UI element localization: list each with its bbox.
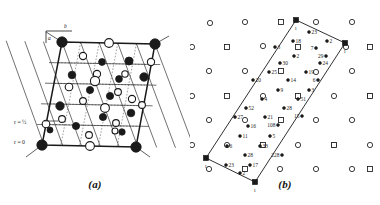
cell-corner-marker (342, 40, 347, 45)
panel-a-drawing: r = ½r = 0ba (0, 0, 190, 175)
open-site (101, 104, 110, 113)
open-square-site (225, 94, 230, 99)
numbered-site-marker (269, 135, 272, 138)
open-circle-site (313, 69, 318, 74)
open-site (80, 98, 87, 105)
numbered-site-marker (281, 154, 284, 157)
numbered-site-marker (297, 98, 300, 101)
numbered-site-marker (277, 124, 280, 127)
numbered-site-marker (305, 71, 308, 74)
open-circle-site (367, 142, 372, 147)
filled-site (116, 76, 123, 83)
filled-site (99, 59, 106, 66)
numbered-site-label: 6 (230, 143, 233, 149)
numbered-site-label: 9 (281, 87, 284, 93)
r-half-label: r = ½ (14, 119, 27, 125)
numbered-site-marker (244, 154, 247, 157)
numbered-site-marker (225, 164, 228, 167)
open-circle-site (313, 166, 318, 171)
open-site (147, 58, 154, 65)
numbered-site-label: 51 (301, 96, 307, 102)
filled-site (47, 127, 53, 133)
numbered-site-label: 6 (313, 77, 316, 83)
filled-site (131, 142, 141, 152)
open-circle-site (206, 166, 211, 171)
numbered-site-marker (325, 55, 328, 58)
numbered-site-marker (249, 164, 252, 167)
numbered-site-marker (268, 71, 271, 74)
panel-a-sublattice-grid (46, 42, 151, 146)
diagonal-line (25, 41, 63, 145)
numbered-site-label: 3 (312, 87, 315, 93)
open-site (79, 52, 86, 59)
panel-a: r = ½r = 0ba (0, 0, 190, 205)
open-circle-site (190, 44, 195, 49)
filled-site (99, 113, 106, 120)
open-circle-site (190, 93, 195, 98)
numbered-site-label: 29 (318, 53, 324, 59)
numbered-site-label: 108 (267, 122, 275, 128)
r-zero-label: r = 0 (14, 139, 25, 145)
numbered-site-marker (279, 62, 282, 65)
open-circle-site (313, 117, 318, 122)
numbered-site-label: 2 (330, 38, 333, 44)
cell-corner-marker (203, 155, 208, 160)
filled-site (106, 92, 113, 99)
numbered-site-marker (226, 145, 229, 148)
open-square-site (279, 20, 284, 25)
panel-b-numbered-sites: 2321837229243025192014693451522827211516… (225, 29, 333, 176)
numbered-site-marker (293, 55, 296, 58)
open-site (65, 83, 73, 91)
numbered-site-marker (319, 62, 322, 65)
numbered-site-marker (239, 172, 242, 175)
open-circle-site (295, 142, 300, 147)
open-square-site (279, 69, 284, 74)
open-circle-site (349, 166, 354, 171)
open-site (112, 128, 118, 134)
open-circle-site (331, 93, 336, 98)
open-site (122, 71, 128, 77)
filled-site (125, 57, 133, 65)
open-circle-site (260, 43, 265, 48)
open-site (90, 76, 99, 85)
grid-line-vertical (61, 42, 81, 145)
numbered-site-label: 11 (243, 133, 248, 139)
panel-b: 1111232183722924302519201469345152282721… (190, 0, 380, 205)
open-circle-site (242, 117, 247, 122)
filled-site (127, 109, 135, 117)
numbered-site-label: 17 (253, 162, 259, 168)
panel-b-caption: (b) (190, 178, 380, 190)
open-site (59, 116, 66, 123)
open-square-site (296, 45, 301, 50)
open-square-site (368, 167, 373, 172)
open-circle-site (206, 68, 211, 73)
open-circle-site (242, 19, 247, 24)
numbered-site-label: 5 (273, 133, 276, 139)
open-site (113, 120, 120, 127)
numbered-site-marker (247, 125, 250, 128)
numbered-site-marker (326, 40, 329, 43)
numbered-site-label: 30 (283, 60, 289, 66)
open-circle-site (349, 117, 354, 122)
numbered-site-label: 2 (297, 53, 300, 59)
numbered-site-marker (301, 115, 304, 118)
panel-b-drawing: 1111232183722924302519201469345152282721… (190, 0, 380, 200)
diagonal-line (6, 41, 44, 145)
numbered-site-marker (283, 107, 286, 110)
panel-a-diagonal-lines (6, 41, 190, 148)
crystallographic-figure: r = ½r = 0ba 111123218372292430251920146… (0, 0, 380, 205)
open-circle-site (277, 166, 282, 171)
open-square-site (368, 94, 373, 99)
open-site (128, 95, 135, 102)
numbered-site-label: 16 (251, 123, 257, 129)
numbered-site-label: 23 (312, 29, 318, 35)
numbered-site-marker (252, 79, 255, 82)
numbered-site-label: 3 (278, 44, 281, 50)
filled-site (57, 37, 67, 47)
diagonal-line (155, 44, 190, 148)
numbered-site-label: 19 (309, 69, 315, 75)
numbered-site-marker (234, 116, 237, 119)
numbered-site-label: 15 (294, 113, 300, 119)
numbered-site-marker (239, 135, 242, 138)
numbered-site-label: 28 (248, 152, 254, 158)
